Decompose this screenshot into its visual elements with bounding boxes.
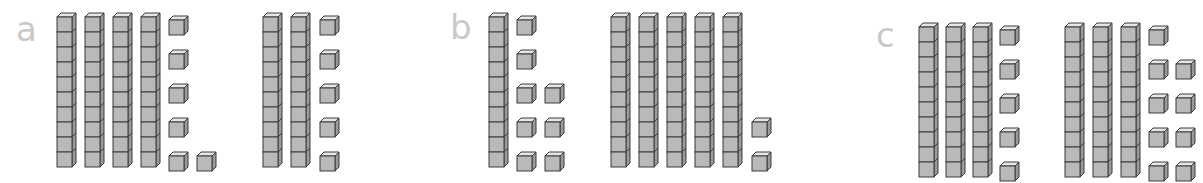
unit-cube [1000, 94, 1020, 114]
unit-cube [1176, 162, 1196, 182]
ten-rod [1121, 23, 1141, 178]
unit-cube [517, 16, 537, 36]
ten-rod [1093, 23, 1113, 178]
unit-cube [545, 84, 565, 104]
unit-cube [169, 84, 189, 104]
unit-cube [169, 50, 189, 70]
panel-label-c: c [876, 18, 895, 52]
ten-rod [639, 13, 659, 168]
ten-rod [57, 13, 77, 168]
ten-rod [946, 23, 966, 178]
ten-rod [263, 13, 283, 168]
ten-rod [919, 23, 939, 178]
unit-cube [320, 152, 340, 172]
ten-rod [85, 13, 105, 168]
unit-cube [1149, 26, 1169, 46]
unit-cube [545, 152, 565, 172]
unit-cube [1000, 60, 1020, 80]
unit-cube [517, 84, 537, 104]
unit-cube [1000, 26, 1020, 46]
ten-rod [113, 13, 133, 168]
unit-cube [1149, 162, 1169, 182]
panel-label-a: a [16, 12, 37, 46]
ten-rod [1065, 23, 1085, 178]
ten-rod [611, 13, 631, 168]
unit-cube [752, 152, 772, 172]
ten-rod [141, 13, 161, 168]
unit-cube [1176, 60, 1196, 80]
unit-cube [517, 118, 537, 138]
ten-rod [667, 13, 687, 168]
unit-cube [320, 50, 340, 70]
unit-cube [320, 16, 340, 36]
unit-cube [1000, 128, 1020, 148]
ten-rod [489, 13, 509, 168]
unit-cube [169, 16, 189, 36]
unit-cube [197, 152, 217, 172]
unit-cube [752, 118, 772, 138]
unit-cube [1149, 60, 1169, 80]
unit-cube [1176, 128, 1196, 148]
ten-rod [723, 13, 743, 168]
unit-cube [1176, 94, 1196, 114]
ten-rod [973, 23, 993, 178]
unit-cube [517, 152, 537, 172]
unit-cube [1000, 162, 1020, 182]
unit-cube [169, 118, 189, 138]
unit-cube [1149, 128, 1169, 148]
ten-rod [695, 13, 715, 168]
unit-cube [517, 50, 537, 70]
ten-rod [291, 13, 311, 168]
unit-cube [169, 152, 189, 172]
unit-cube [320, 84, 340, 104]
unit-cube [320, 118, 340, 138]
panel-label-b: b [450, 10, 472, 44]
unit-cube [1149, 94, 1169, 114]
unit-cube [545, 118, 565, 138]
